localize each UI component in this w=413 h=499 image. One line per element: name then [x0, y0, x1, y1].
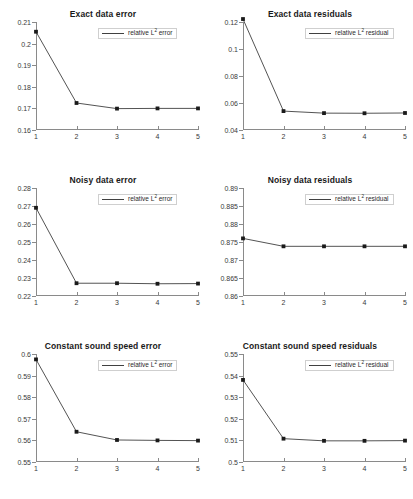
x-axis-tick-label: 5 — [403, 133, 407, 140]
chart-legend[interactable]: relative L2 residual — [305, 194, 394, 205]
chart-legend[interactable]: relative L2 error — [98, 28, 177, 39]
x-axis-tick-label: 2 — [282, 299, 286, 306]
y-axis-tick — [32, 130, 36, 131]
figure-canvas: Exact data error0.160.170.180.190.20.211… — [0, 0, 413, 499]
y-axis-tick-label: 0.04 — [224, 127, 238, 134]
chart-panel-top-left: Exact data error0.160.170.180.190.20.211… — [0, 0, 206, 166]
x-axis-tick-label: 1 — [34, 299, 38, 306]
data-point-marker — [75, 101, 79, 105]
chart-legend[interactable]: relative L2 residual — [305, 360, 394, 371]
x-axis-tick-label: 3 — [322, 465, 326, 472]
x-axis-tick-label: 4 — [363, 133, 367, 140]
x-axis-tick-label: 4 — [363, 299, 367, 306]
x-axis-tick-label: 2 — [75, 133, 79, 140]
data-point-marker — [115, 438, 119, 442]
y-axis-tick-label: 0.53 — [224, 394, 238, 401]
data-point-marker — [363, 439, 367, 443]
data-point-marker — [115, 107, 119, 111]
y-axis-tick-label: 0.87 — [224, 257, 238, 264]
x-axis-tick-label: 5 — [196, 133, 200, 140]
data-point-marker — [241, 378, 245, 382]
legend-line-swatch — [309, 33, 331, 34]
x-axis-tick-label: 1 — [241, 299, 245, 306]
y-axis-tick-label: 0.28 — [17, 185, 31, 192]
chart-title: Noisy data error — [0, 175, 206, 185]
x-axis-tick-label: 4 — [363, 465, 367, 472]
legend-line-swatch — [309, 365, 331, 366]
y-axis-tick-label: 0.51 — [224, 437, 238, 444]
y-axis-tick-label: 0.23 — [17, 275, 31, 282]
data-point-marker — [363, 111, 367, 115]
series-line — [36, 359, 198, 440]
data-point-marker — [156, 107, 160, 111]
legend-line-swatch — [102, 199, 124, 200]
data-point-marker — [156, 282, 160, 286]
chart-title: Exact data error — [0, 9, 206, 19]
legend-label-suffix: residual — [364, 29, 389, 36]
legend-label-suffix: error — [157, 195, 173, 202]
legend-label-prefix: relative L — [335, 361, 361, 368]
y-axis-tick-label: 0.27 — [17, 203, 31, 210]
y-axis-tick-label: 0.59 — [17, 372, 31, 379]
legend-label: relative L2 error — [128, 362, 172, 369]
data-point-marker — [196, 439, 200, 443]
legend-label-prefix: relative L — [128, 361, 154, 368]
x-axis-tick — [198, 458, 199, 462]
y-axis-tick — [239, 462, 243, 463]
y-axis-tick-label: 0.18 — [17, 83, 31, 90]
x-axis-tick-label: 1 — [241, 133, 245, 140]
data-point-marker — [403, 111, 407, 115]
x-axis-tick-label: 2 — [75, 299, 79, 306]
x-axis-tick-label: 3 — [115, 465, 119, 472]
y-axis-tick — [239, 296, 243, 297]
x-axis-tick-label: 3 — [115, 133, 119, 140]
x-axis-tick-label: 2 — [282, 133, 286, 140]
data-point-marker — [34, 358, 38, 362]
y-axis-tick-label: 0.6 — [21, 351, 31, 358]
x-axis-tick-label: 5 — [403, 465, 407, 472]
x-axis-tick-label: 3 — [322, 299, 326, 306]
x-axis-tick — [405, 292, 406, 296]
y-axis-tick-label: 0.89 — [224, 185, 238, 192]
legend-label-suffix: residual — [364, 195, 389, 202]
legend-label-prefix: relative L — [128, 195, 154, 202]
chart-panel-bottom-right: Constant sound speed residuals0.50.510.5… — [207, 332, 413, 498]
y-axis-tick-label: 0.1 — [228, 46, 238, 53]
data-point-marker — [196, 282, 200, 286]
legend-line-swatch — [102, 365, 124, 366]
legend-label-prefix: relative L — [128, 29, 154, 36]
data-point-marker — [75, 281, 79, 285]
y-axis-tick-label: 0.12 — [224, 19, 238, 26]
data-point-marker — [282, 244, 286, 248]
x-axis-tick-label: 5 — [196, 465, 200, 472]
legend-label-suffix: error — [157, 361, 173, 368]
data-point-marker — [75, 430, 79, 434]
y-axis-tick-label: 0.86 — [224, 293, 238, 300]
chart-title: Noisy data residuals — [207, 175, 413, 185]
y-axis-tick-label: 0.21 — [17, 19, 31, 26]
y-axis-tick — [239, 130, 243, 131]
y-axis-tick-label: 0.57 — [17, 415, 31, 422]
x-axis-tick-label: 4 — [156, 133, 160, 140]
y-axis-tick-label: 0.875 — [220, 239, 238, 246]
series-line — [243, 380, 405, 441]
data-point-marker — [241, 17, 245, 21]
chart-legend[interactable]: relative L2 error — [98, 194, 177, 205]
legend-label-prefix: relative L — [335, 195, 361, 202]
data-point-marker — [403, 439, 407, 443]
x-axis-tick-label: 1 — [34, 133, 38, 140]
x-axis-tick-label: 4 — [156, 299, 160, 306]
y-axis-tick-label: 0.88 — [224, 221, 238, 228]
data-point-marker — [282, 437, 286, 441]
y-axis-tick-label: 0.26 — [17, 221, 31, 228]
data-point-marker — [363, 244, 367, 248]
y-axis-tick-label: 0.55 — [224, 351, 238, 358]
chart-panel-top-right: Exact data residuals0.040.060.080.10.121… — [207, 0, 413, 166]
series-line — [36, 208, 198, 284]
x-axis-tick-label: 1 — [34, 465, 38, 472]
chart-legend[interactable]: relative L2 error — [98, 360, 177, 371]
data-point-marker — [403, 244, 407, 248]
chart-legend[interactable]: relative L2 residual — [305, 28, 394, 39]
chart-panel-middle-left: Noisy data error0.220.230.240.250.260.27… — [0, 166, 206, 332]
chart-title: Exact data residuals — [207, 9, 413, 19]
